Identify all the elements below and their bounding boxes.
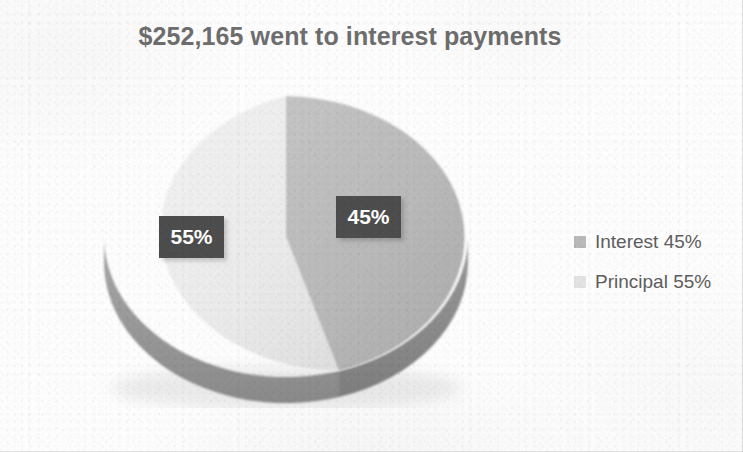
pie-chart-svg	[96, 88, 476, 408]
data-label-interest: 45%	[336, 196, 401, 238]
legend-swatch-principal	[574, 276, 586, 288]
data-label-principal: 55%	[159, 216, 224, 258]
chart-title: $252,165 went to interest payments	[0, 22, 700, 51]
legend-label-principal: Principal 55%	[595, 271, 711, 293]
legend-item-principal[interactable]: Principal 55%	[574, 262, 711, 302]
chart-screenshot: $252,165 went to interest payments	[0, 0, 743, 452]
pie-chart	[96, 88, 476, 408]
legend-item-interest[interactable]: Interest 45%	[574, 222, 711, 262]
legend-swatch-interest	[574, 236, 586, 248]
legend-label-interest: Interest 45%	[595, 231, 702, 253]
chart-legend: Interest 45% Principal 55%	[574, 222, 711, 302]
